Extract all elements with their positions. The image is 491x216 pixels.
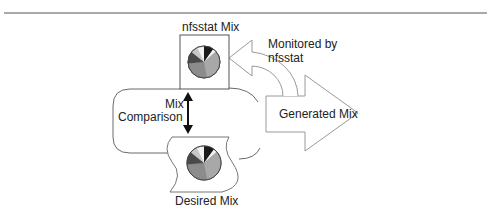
nfsstat-mix-label: nfsstat Mix (182, 20, 239, 34)
comparison-label-line1: Mix (165, 97, 184, 111)
diagram-canvas (0, 0, 491, 216)
loop-connector-top (229, 88, 258, 102)
comparison-double-arrow (183, 92, 193, 134)
loop-connector-bottom (239, 148, 260, 159)
generated-mix-label: Generated Mix (279, 107, 358, 121)
desired-mix-label: Desired Mix (175, 194, 238, 208)
nfsstat-pie-chart (188, 46, 220, 78)
desired-pie-chart (187, 146, 221, 180)
monitored-label-line1: Monitored by (268, 37, 337, 51)
monitored-label-line2: nfsstat (268, 51, 303, 65)
comparison-label-line2: Comparison (118, 110, 183, 124)
